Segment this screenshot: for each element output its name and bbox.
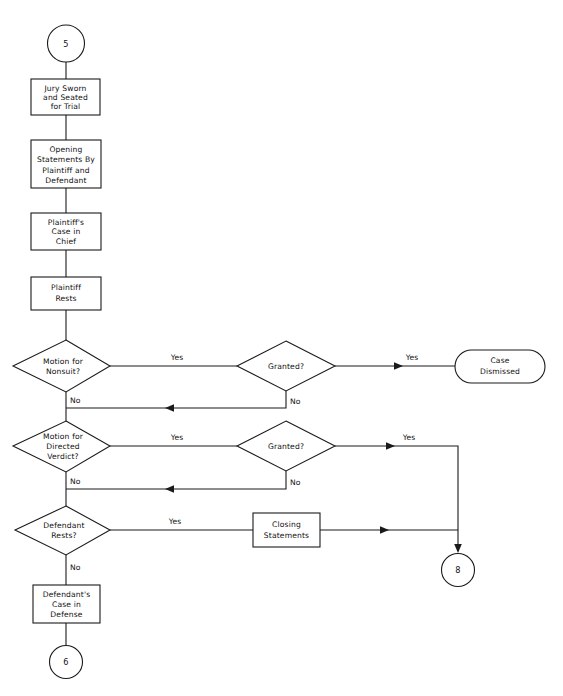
motion-directed-verdict-line-1: Motion for bbox=[43, 432, 84, 441]
closing-statements-line-1: Closing bbox=[272, 520, 301, 529]
connector-node-6[interactable]: 6 bbox=[50, 646, 83, 679]
granted-nonsuit-label: Granted? bbox=[268, 362, 304, 371]
process-node-opening-statements[interactable]: Opening Statements By Plaintiff and Defe… bbox=[31, 140, 101, 188]
decision-node-motion-nonsuit[interactable]: Motion for Nonsuit? bbox=[13, 340, 110, 392]
edge-label-nonsuit-no: No bbox=[70, 396, 81, 405]
opening-statements-line-1: Opening bbox=[49, 145, 82, 154]
edge-label-nonsuit-yes: Yes bbox=[170, 353, 184, 362]
decision-node-motion-directed-verdict[interactable]: Motion for Directed Verdict? bbox=[13, 421, 110, 472]
opening-statements-line-2: Statements By bbox=[37, 155, 95, 164]
connector-node-8[interactable]: 8 bbox=[442, 554, 475, 587]
edge-label-defendant-rests-yes: Yes bbox=[168, 517, 182, 526]
edge-label-granted2-yes: Yes bbox=[402, 433, 416, 442]
connector-6-label: 6 bbox=[63, 657, 68, 667]
decision-node-defendant-rests[interactable]: Defendant Rests? bbox=[15, 506, 110, 555]
defendant-case-line-2: Case in bbox=[52, 600, 81, 609]
plaintiff-case-line-3: Chief bbox=[56, 237, 76, 246]
decision-node-granted-nonsuit[interactable]: Granted? bbox=[237, 341, 335, 391]
case-dismissed-line-2: Dismissed bbox=[480, 367, 520, 376]
edge-label-granted2-no: No bbox=[290, 478, 301, 487]
decision-node-granted-directed-verdict[interactable]: Granted? bbox=[237, 421, 335, 471]
arrow-into-connector-8 bbox=[454, 544, 462, 553]
process-node-jury-sworn[interactable]: Jury Sworn and Seated for Trial bbox=[31, 79, 100, 115]
granted-directed-verdict-label: Granted? bbox=[268, 442, 304, 451]
edge-label-granted1-no: No bbox=[290, 397, 301, 406]
opening-statements-line-4: Defendant bbox=[45, 176, 86, 185]
plaintiff-rests-line-2: Rests bbox=[55, 294, 76, 303]
plaintiff-case-line-1: Plaintiff's bbox=[48, 218, 84, 227]
opening-statements-line-3: Plaintiff and bbox=[42, 166, 89, 175]
arrow-granted1-no bbox=[165, 404, 174, 412]
process-node-plaintiff-case-in-chief[interactable]: Plaintiff's Case in Chief bbox=[31, 213, 101, 250]
connector-5-label: 5 bbox=[63, 39, 68, 49]
motion-directed-verdict-line-2: Directed bbox=[46, 442, 79, 451]
plaintiff-case-line-2: Case in bbox=[52, 227, 81, 236]
defendant-case-line-1: Defendant's bbox=[43, 590, 91, 599]
motion-directed-verdict-line-3: Verdict? bbox=[47, 452, 79, 461]
connector-8-label: 8 bbox=[455, 565, 460, 575]
jury-sworn-line-2: and Seated bbox=[43, 93, 88, 102]
closing-statements-line-2: Statements bbox=[264, 531, 309, 540]
jury-sworn-line-3: for Trial bbox=[51, 102, 81, 111]
edge-granted2-no-loop bbox=[66, 471, 286, 489]
case-dismissed-line-1: Case bbox=[490, 356, 509, 365]
process-node-defendant-case-in-defense[interactable]: Defendant's Case in Defense bbox=[33, 585, 100, 623]
edge-granted2-yes bbox=[335, 446, 458, 551]
defendant-case-line-3: Defense bbox=[50, 610, 83, 619]
edge-label-defendant-rests-no: No bbox=[70, 563, 81, 572]
process-node-closing-statements[interactable]: Closing Statements bbox=[253, 513, 320, 547]
defendant-rests-line-2: Rests? bbox=[51, 531, 76, 540]
motion-nonsuit-line-2: Nonsuit? bbox=[46, 367, 80, 376]
edge-granted1-no-loop bbox=[66, 391, 286, 408]
arrow-closing-to-connector8 bbox=[380, 526, 389, 534]
edge-label-directed-no: No bbox=[70, 477, 81, 486]
defendant-rests-line-1: Defendant bbox=[43, 521, 84, 530]
arrow-granted2-yes bbox=[386, 442, 395, 450]
flowchart-svg: 5 Jury Sworn and Seated for Trial Openin… bbox=[0, 0, 563, 696]
flowchart-canvas: 5 Jury Sworn and Seated for Trial Openin… bbox=[0, 0, 563, 696]
process-node-plaintiff-rests[interactable]: Plaintiff Rests bbox=[31, 277, 101, 310]
terminator-node-case-dismissed[interactable]: Case Dismissed bbox=[455, 350, 545, 383]
edge-label-granted1-yes: Yes bbox=[405, 353, 419, 362]
edge-label-directed-yes: Yes bbox=[170, 433, 184, 442]
arrow-granted1-yes bbox=[394, 362, 403, 370]
motion-nonsuit-line-1: Motion for bbox=[43, 357, 84, 366]
connector-node-5[interactable]: 5 bbox=[48, 25, 85, 62]
jury-sworn-line-1: Jury Sworn bbox=[43, 84, 86, 93]
plaintiff-rests-line-1: Plaintiff bbox=[51, 283, 81, 292]
arrow-granted2-no bbox=[165, 485, 174, 493]
